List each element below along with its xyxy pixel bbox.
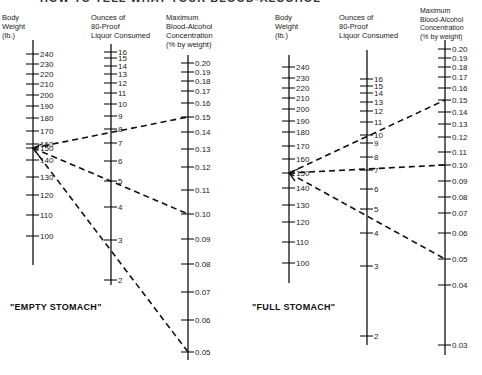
tick-label: 0.10 <box>452 161 468 170</box>
empty-stomach-nomogram: 2402302202102001901801701601501401301201… <box>26 40 211 360</box>
tick-label: 0.18 <box>195 77 211 86</box>
tick-label: 230 <box>296 74 310 83</box>
tick-label: 0.16 <box>452 84 468 93</box>
tick-label: 200 <box>296 105 310 114</box>
tick-label: 0.19 <box>452 54 468 63</box>
body-weight-axis: 2402302202102001901801701601501401301201… <box>26 40 54 265</box>
tick-label: 9 <box>374 139 379 148</box>
tick-label: 150 <box>296 169 310 178</box>
tick-label: 11 <box>374 118 383 127</box>
tick-label: 12 <box>118 79 127 88</box>
tick-label: 190 <box>40 102 54 111</box>
tick-label: 13 <box>118 70 127 79</box>
tick-label: 220 <box>296 84 310 93</box>
tick-label: 240 <box>296 63 310 72</box>
tick-label: 0.15 <box>195 113 211 122</box>
tick-label: 0.20 <box>452 45 468 54</box>
tick-label: 7 <box>118 139 123 148</box>
tick-label: 110 <box>40 211 53 220</box>
body-weight-axis: 2402302202102001901801701601501401301201… <box>282 55 310 283</box>
liquor-axis: 1615141312111098765432 <box>360 50 383 345</box>
tick-label: 0.08 <box>195 260 211 269</box>
tick-label: 100 <box>40 232 54 241</box>
tick-label: 0.11 <box>452 148 468 157</box>
tick-label: 170 <box>40 127 54 136</box>
tick-label: 9 <box>118 112 123 121</box>
tick-label: 230 <box>40 60 54 69</box>
tick-label: 0.18 <box>452 63 468 72</box>
tick-label: 180 <box>40 114 54 123</box>
tick-label: 6 <box>118 157 123 166</box>
tick-label: 200 <box>40 91 54 100</box>
tick-label: 0.14 <box>452 108 468 117</box>
tick-label: 0.03 <box>452 341 468 350</box>
tick-label: 0.13 <box>452 120 468 129</box>
tick-label: 0.04 <box>452 281 468 290</box>
tick-label: 0.09 <box>195 235 211 244</box>
tick-label: 0.06 <box>452 229 468 238</box>
tick-label: 100 <box>296 259 310 268</box>
tick-label: 12 <box>374 107 383 116</box>
tick-label: 2 <box>374 332 379 341</box>
tick-label: 130 <box>40 173 54 182</box>
tick-label: 140 <box>296 184 310 193</box>
tick-label: 4 <box>374 229 379 238</box>
tick-label: 6 <box>374 185 379 194</box>
tick-label: 0.13 <box>195 145 211 154</box>
tick-label: 0.05 <box>452 255 468 264</box>
tick-label: 130 <box>296 201 310 210</box>
bac-axis: 0.200.190.180.170.160.150.140.130.120.11… <box>181 55 211 360</box>
tick-label: 0.17 <box>195 87 211 96</box>
tick-label: 0.16 <box>195 99 211 108</box>
tick-label: 0.19 <box>195 68 211 77</box>
tick-label: 3 <box>118 236 123 245</box>
tick-label: 0.11 <box>195 186 211 195</box>
tick-label: 180 <box>296 128 310 137</box>
tick-label: 0.15 <box>452 96 468 105</box>
tick-label: 0.06 <box>195 316 211 325</box>
liquor-axis: 1615141312111098765432 <box>104 44 127 285</box>
tick-label: 14 <box>374 89 383 98</box>
tick-label: 240 <box>40 50 54 59</box>
nomogram-canvas: 2402302202102001901801701601501401301201… <box>0 0 482 375</box>
tick-label: 2 <box>118 276 123 285</box>
tick-label: 8 <box>374 153 379 162</box>
tick-label: 0.05 <box>195 348 211 357</box>
tick-label: 0.07 <box>452 209 468 218</box>
tick-label: 0.09 <box>452 177 468 186</box>
tick-label: 0.12 <box>452 133 468 142</box>
tick-label: 160 <box>296 155 310 164</box>
full-stomach-nomogram: 2402302202102001901801701601501401301201… <box>282 40 468 355</box>
tick-label: 3 <box>374 262 379 271</box>
tick-label: 0.20 <box>195 59 211 68</box>
tick-label: 110 <box>296 238 309 247</box>
tick-label: 190 <box>296 117 310 126</box>
tick-label: 120 <box>40 191 54 200</box>
tick-label: 11 <box>118 89 127 98</box>
tick-label: 170 <box>296 142 310 151</box>
tick-label: 13 <box>374 98 383 107</box>
bac-axis: 0.200.190.180.170.160.150.140.130.120.11… <box>438 40 468 355</box>
tick-label: 220 <box>40 70 54 79</box>
tick-label: 210 <box>296 94 310 103</box>
tick-label: 0.17 <box>452 73 468 82</box>
tick-label: 120 <box>296 218 310 227</box>
tick-label: 0.08 <box>452 193 468 202</box>
tick-label: 0.10 <box>195 210 211 219</box>
tick-label: 7 <box>374 166 379 175</box>
tick-label: 10 <box>118 100 127 109</box>
tick-label: 0.14 <box>195 128 211 137</box>
tick-label: 0.07 <box>195 288 211 297</box>
tick-label: 4 <box>118 203 123 212</box>
tick-label: 210 <box>40 80 54 89</box>
tick-label: 5 <box>374 205 379 214</box>
tick-label: 0.12 <box>195 163 211 172</box>
